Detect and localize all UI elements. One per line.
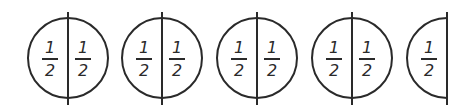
numerator: 1 bbox=[264, 40, 280, 56]
fraction-label: 1 2 bbox=[75, 40, 91, 79]
denominator: 2 bbox=[42, 63, 58, 79]
fraction-bar bbox=[169, 58, 185, 60]
fraction-bar bbox=[231, 58, 247, 60]
fraction-label: 1 2 bbox=[169, 40, 185, 79]
fraction-bar bbox=[326, 58, 342, 60]
fraction-label: 1 2 bbox=[42, 40, 58, 79]
numerator: 1 bbox=[359, 40, 375, 56]
denominator: 2 bbox=[75, 63, 91, 79]
numerator: 1 bbox=[326, 40, 342, 56]
denominator: 2 bbox=[136, 63, 152, 79]
numerator: 1 bbox=[136, 40, 152, 56]
fraction-bar bbox=[421, 58, 437, 60]
numerator: 1 bbox=[75, 40, 91, 56]
fraction-label: 1 2 bbox=[359, 40, 375, 79]
fraction-label: 1 2 bbox=[326, 40, 342, 79]
fraction-circles-diagram: 1 2 1 2 1 2 1 2 1 2 1 2 1 2 1 2 bbox=[0, 0, 469, 111]
numerator: 1 bbox=[42, 40, 58, 56]
numerator: 1 bbox=[169, 40, 185, 56]
fraction-bar bbox=[359, 58, 375, 60]
fraction-bar bbox=[136, 58, 152, 60]
numerator: 1 bbox=[231, 40, 247, 56]
denominator: 2 bbox=[326, 63, 342, 79]
fraction-label: 1 2 bbox=[264, 40, 280, 79]
fraction-label: 1 2 bbox=[136, 40, 152, 79]
denominator: 2 bbox=[359, 63, 375, 79]
fraction-bar bbox=[264, 58, 280, 60]
fraction-label: 1 2 bbox=[421, 40, 437, 79]
denominator: 2 bbox=[231, 63, 247, 79]
fraction-bar bbox=[42, 58, 58, 60]
fraction-bar bbox=[75, 58, 91, 60]
numerator: 1 bbox=[421, 40, 437, 56]
denominator: 2 bbox=[264, 63, 280, 79]
denominator: 2 bbox=[421, 63, 437, 79]
denominator: 2 bbox=[169, 63, 185, 79]
fraction-label: 1 2 bbox=[231, 40, 247, 79]
